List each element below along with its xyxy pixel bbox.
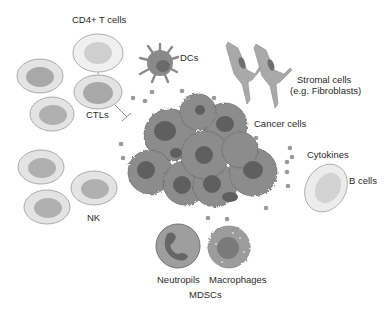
- stromal-cell: [254, 44, 292, 108]
- ctl-cell: [74, 75, 122, 109]
- cd4-t-cell: [73, 34, 123, 72]
- nk-cell: [24, 190, 70, 224]
- nk-cell: [71, 171, 117, 205]
- ctl-cell: [17, 59, 63, 93]
- label-neutrophils: Neutropils: [157, 274, 200, 285]
- label-cytokines: Cytokines: [307, 149, 349, 160]
- label-stromal-line1: Stromal cells: [297, 74, 351, 85]
- label-nk: NK: [87, 212, 100, 223]
- label-cd4-t-cells: CD4+ T cells: [72, 14, 126, 25]
- ctl-synapse-connector: [115, 105, 131, 121]
- neutrophil: [156, 224, 200, 268]
- label-cancer-cells: Cancer cells: [254, 118, 306, 129]
- nk-cell: [18, 150, 64, 184]
- ctl-cell: [30, 97, 74, 131]
- label-dcs: DCs: [180, 52, 198, 63]
- macrophage: [208, 226, 250, 268]
- label-mdscs: MDSCs: [189, 289, 222, 300]
- label-ctls: CTLs: [86, 109, 109, 120]
- b-cell: [296, 156, 356, 219]
- label-macrophages: Macrophages: [209, 274, 267, 285]
- label-b-cells: B cells: [349, 175, 377, 186]
- dendritic-cell: [140, 44, 178, 82]
- label-stromal-line2: (e.g. Fibroblasts): [290, 85, 361, 96]
